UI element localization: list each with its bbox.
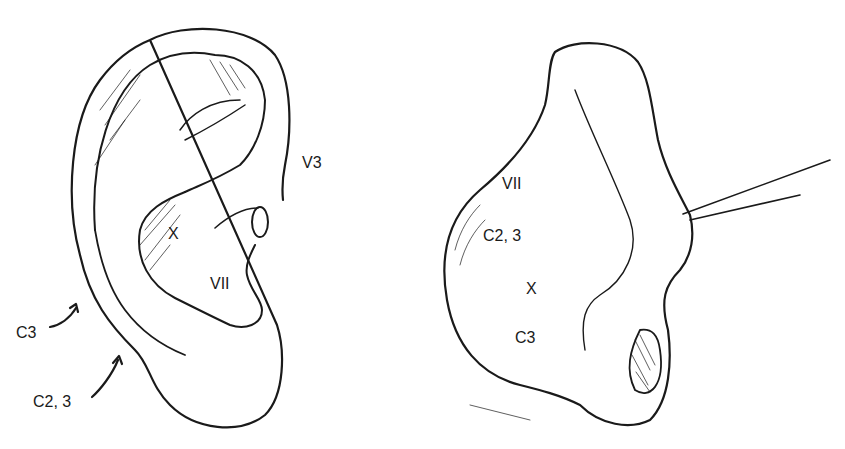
right-label-c23: C2, 3 <box>483 228 521 244</box>
right-ear-fold <box>575 90 633 350</box>
left-ear-antihelix <box>139 192 262 327</box>
left-label-c23: C2, 3 <box>33 394 71 410</box>
right-ear-outline <box>444 43 692 425</box>
ear-innervation-illustration <box>0 0 845 449</box>
left-label-x: X <box>168 226 179 242</box>
right-label-vii: VII <box>502 176 522 192</box>
left-label-c3: C3 <box>16 325 36 341</box>
right-label-c3: C3 <box>515 330 535 346</box>
left-label-v3: V3 <box>302 155 322 171</box>
left-ear-outline <box>72 29 290 427</box>
c3-arrow <box>50 308 76 327</box>
right-ear-concha-shadow <box>630 330 661 393</box>
left-label-vii: VII <box>210 276 230 292</box>
right-label-x: X <box>526 281 537 297</box>
left-ear-crus <box>180 100 245 140</box>
retractor <box>683 160 830 220</box>
c23-arrow <box>92 360 118 397</box>
left-ear-canal <box>252 207 268 237</box>
